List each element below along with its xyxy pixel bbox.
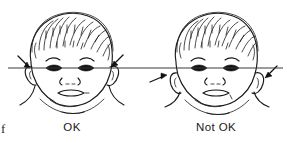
hair-not-ok — [177, 12, 258, 60]
arrow-left-ear-not-ok — [150, 73, 167, 82]
edge-fragment-glyph: f — [1, 121, 6, 136]
mouth-ok — [58, 90, 89, 96]
neck-shoulders-not-ok — [165, 92, 269, 115]
panel-not-ok — [150, 12, 277, 114]
eyebrows-ok — [46, 58, 94, 61]
hair-ok — [32, 12, 113, 60]
caption-not-ok: Not OK — [196, 121, 236, 133]
head-outline-not-ok — [175, 13, 257, 106]
panel-ok — [18, 12, 124, 113]
nose-ok — [60, 78, 81, 85]
ear-right-not-ok — [252, 73, 264, 94]
arrow-left-ear-ok — [18, 56, 30, 68]
ear-left-ok — [25, 67, 36, 86]
mouth-not-ok — [203, 90, 232, 99]
figure-container: OK Not OK f — [0, 0, 287, 143]
nose-not-ok — [205, 78, 226, 85]
caption-ok: OK — [63, 121, 80, 133]
head-outline-ok — [30, 13, 112, 106]
figure-illustration: OK Not OK f — [0, 0, 287, 143]
eyebrows-not-ok — [191, 58, 239, 61]
ear-right-ok — [107, 66, 119, 85]
ear-left-not-ok — [170, 73, 181, 94]
